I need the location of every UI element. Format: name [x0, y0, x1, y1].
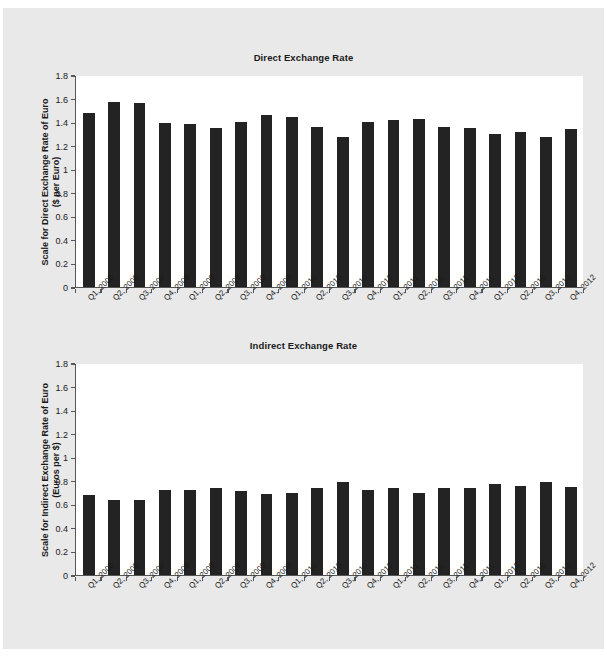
bar: [337, 137, 349, 287]
x-axis-tick-mark: [75, 577, 76, 581]
y-axis-tick-label: 1.8: [0, 71, 68, 81]
y-axis-tick-mark: [71, 170, 75, 171]
y-axis-tick-label: 0.6: [0, 212, 68, 222]
y-axis-tick-label: 1.8: [0, 359, 68, 369]
y-axis-tick-mark: [71, 387, 75, 388]
y-axis-tick-mark: [71, 505, 75, 506]
y-axis-tick-mark: [71, 146, 75, 147]
y-axis-tick-mark: [71, 193, 75, 194]
y-axis-tick-label: 0.2: [0, 259, 68, 269]
figure-page: Direct Exchange Rate Scale for Direct Ex…: [0, 0, 607, 657]
bar: [565, 129, 577, 287]
chart-title-direct: Direct Exchange Rate: [0, 52, 607, 63]
y-axis-tick-label: 0: [0, 571, 68, 581]
bar: [388, 120, 400, 287]
y-axis-tick-mark: [71, 434, 75, 435]
chart-title-indirect: Indirect Exchange Rate: [0, 340, 607, 351]
plot-area-direct: [75, 76, 583, 288]
bar: [134, 103, 146, 287]
y-axis-tick-label: 0.4: [0, 524, 68, 534]
y-axis-tick-label: 1.2: [0, 430, 68, 440]
bar: [108, 102, 120, 287]
y-axis-tick-label: 1.2: [0, 142, 68, 152]
bar: [261, 115, 273, 287]
bar: [515, 132, 527, 287]
y-axis-tick-mark: [71, 123, 75, 124]
bar: [235, 122, 247, 287]
plot-area-indirect: [75, 364, 583, 576]
y-axis-tick-label: 0.8: [0, 189, 68, 199]
y-axis-tick-label: 1: [0, 453, 68, 463]
bar: [184, 124, 196, 287]
y-axis-tick-label: 0.8: [0, 477, 68, 487]
y-axis-tick-mark: [71, 75, 75, 76]
direct-exchange-rate-figure: Direct Exchange Rate Scale for Direct Ex…: [0, 52, 607, 342]
bar: [464, 128, 476, 287]
y-axis-tick-label: 1: [0, 165, 68, 175]
y-axis-tick-label: 0.4: [0, 236, 68, 246]
bar: [210, 128, 222, 287]
indirect-exchange-rate-figure: Indirect Exchange Rate Scale for Indirec…: [0, 340, 607, 630]
bar: [83, 113, 95, 287]
y-axis-tick-label: 0: [0, 283, 68, 293]
y-axis-tick-mark: [71, 411, 75, 412]
bar: [413, 119, 425, 287]
plot-background-indirect: [76, 364, 583, 575]
y-axis-tick-mark: [71, 240, 75, 241]
bar: [83, 495, 95, 575]
y-axis-tick-mark: [71, 552, 75, 553]
y-axis-tick-label: 0.2: [0, 547, 68, 557]
bar: [540, 137, 552, 287]
y-axis-tick-label: 1.4: [0, 118, 68, 128]
y-axis-tick-mark: [71, 363, 75, 364]
bar: [438, 127, 450, 287]
y-axis-tick-mark: [71, 528, 75, 529]
bar: [489, 134, 501, 287]
y-axis-tick-label: 1.4: [0, 406, 68, 416]
y-axis-tick-mark: [71, 217, 75, 218]
y-axis-tick-mark: [71, 481, 75, 482]
y-axis-tick-mark: [71, 99, 75, 100]
x-axis-tick-mark: [75, 289, 76, 293]
y-axis-tick-label: 1.6: [0, 383, 68, 393]
bar: [362, 122, 374, 287]
y-axis-tick-mark: [71, 458, 75, 459]
y-axis-tick-mark: [71, 264, 75, 265]
plot-background-direct: [76, 76, 583, 287]
bar: [286, 117, 298, 287]
y-axis-tick-label: 0.6: [0, 500, 68, 510]
bar: [311, 127, 323, 287]
bar: [159, 123, 171, 287]
y-axis-tick-label: 1.6: [0, 95, 68, 105]
